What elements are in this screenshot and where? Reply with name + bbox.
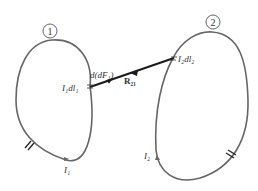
loop-2-id: 2	[211, 17, 216, 28]
battery-symbol-loop-2	[226, 150, 236, 158]
loop-2	[156, 32, 248, 180]
force-label: d(dF₁)	[90, 70, 114, 80]
loop-1	[16, 40, 92, 161]
magnetic-force-diagram: 1 2 d(dF₁) I₁dl₁ R₂₁ I₂dl₂ I₁ I₂	[0, 0, 258, 191]
element-1-label: I₁dl₁	[61, 83, 78, 93]
element-2-label: I₂dl₂	[177, 54, 194, 64]
loop-1-id: 1	[48, 26, 53, 37]
battery-symbol-loop-1	[25, 141, 34, 150]
vector-label: R₂₁	[124, 76, 136, 86]
current-1-label: I₁	[63, 165, 70, 175]
current-2-label: I₂	[143, 151, 150, 161]
